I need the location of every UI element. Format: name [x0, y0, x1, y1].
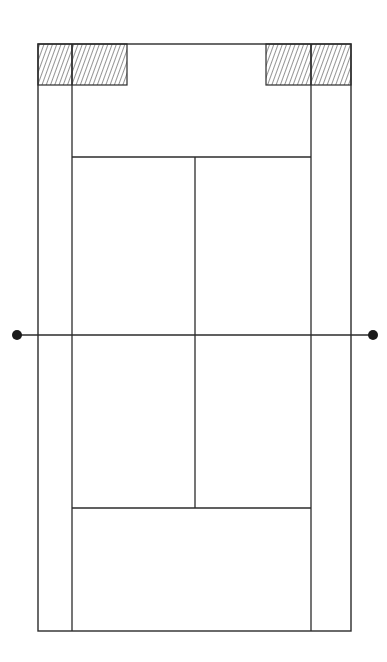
court-svg-canvas [0, 0, 387, 662]
hatch-left-block [38, 44, 127, 85]
hatch-right-fill [266, 44, 351, 85]
figure-background [0, 0, 387, 662]
right-net-post-marker-icon [368, 330, 378, 340]
left-net-post-marker-icon [12, 330, 22, 340]
tennis-court-diagram: Tennis court plan view Line diagram of a… [0, 0, 387, 662]
hatch-left-fill [38, 44, 127, 85]
hatch-right-block [266, 44, 351, 85]
